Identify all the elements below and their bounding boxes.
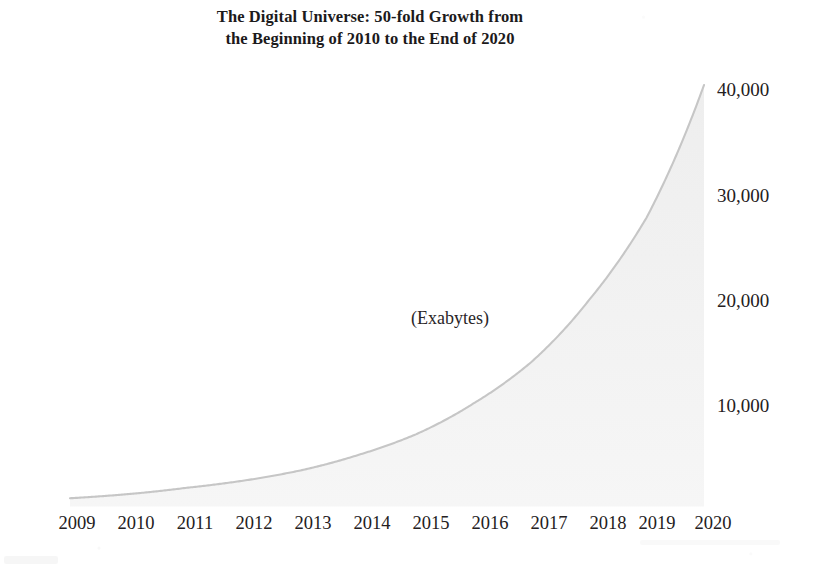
x-tick-label-2013: 2013 [281, 513, 345, 533]
x-tick-label-2017: 2017 [517, 513, 581, 533]
area-series-fill [70, 85, 704, 506]
x-tick-label-2010: 2010 [104, 513, 168, 533]
y-tick-label-20000: 20,000 [717, 291, 822, 310]
area-chart-svg [0, 0, 825, 571]
x-tick-label-2009: 2009 [45, 513, 109, 533]
x-tick-label-2016: 2016 [458, 513, 522, 533]
x-tick-label-2019: 2019 [625, 513, 689, 533]
x-tick-label-2020: 2020 [681, 513, 745, 533]
figure-digital-universe: The Digital Universe: 50-fold Growth fro… [0, 0, 825, 571]
plot-area [0, 0, 825, 571]
scan-smudge-right [640, 540, 780, 545]
x-tick-label-2011: 2011 [163, 513, 227, 533]
x-tick-label-2015: 2015 [399, 513, 463, 533]
series-unit-annotation: (Exabytes) [411, 308, 489, 328]
y-tick-label-40000: 40,000 [717, 80, 822, 99]
y-tick-label-30000: 30,000 [717, 186, 822, 205]
x-tick-label-2014: 2014 [340, 513, 404, 533]
scan-smudge-left [4, 556, 58, 564]
x-tick-label-2012: 2012 [222, 513, 286, 533]
y-tick-label-10000: 10,000 [717, 396, 822, 415]
